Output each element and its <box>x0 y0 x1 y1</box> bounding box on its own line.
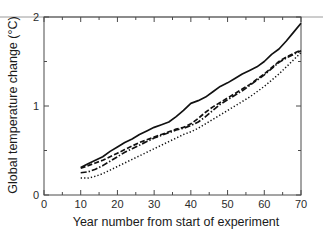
line-chart: 010203040506070 012 Year number from sta… <box>0 0 323 234</box>
chart-figure: 010203040506070 012 Year number from sta… <box>0 0 323 234</box>
y-tick-label: 0 <box>33 189 39 201</box>
x-tick-label: 20 <box>111 198 123 210</box>
y-tick-label: 1 <box>33 100 39 112</box>
x-tick-label: 0 <box>41 198 47 210</box>
x-tick-label: 30 <box>148 198 160 210</box>
x-tick-label: 60 <box>258 198 270 210</box>
y-tick-label: 2 <box>33 11 39 23</box>
x-tick-label: 40 <box>185 198 197 210</box>
x-axis-title: Year number from start of experiment <box>73 215 280 229</box>
y-axis-title: Global temperature change (°C) <box>6 16 20 193</box>
plot-background <box>0 0 323 234</box>
x-tick-label: 50 <box>221 198 233 210</box>
x-tick-label: 70 <box>295 198 307 210</box>
x-tick-label: 10 <box>75 198 87 210</box>
